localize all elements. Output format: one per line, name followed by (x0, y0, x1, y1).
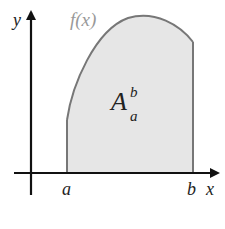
x-axis-label: x (205, 179, 214, 199)
area-label-sub: a (130, 108, 138, 124)
function-label: f(x) (70, 9, 96, 31)
area-label-main: A (109, 87, 127, 116)
upper-bound-label: b (187, 179, 196, 199)
area-diagram: y f(x) A b a a b x (0, 0, 225, 229)
lower-bound-label: a (62, 179, 71, 199)
y-axis-label: y (11, 10, 21, 30)
area-label-sup: b (130, 84, 138, 100)
